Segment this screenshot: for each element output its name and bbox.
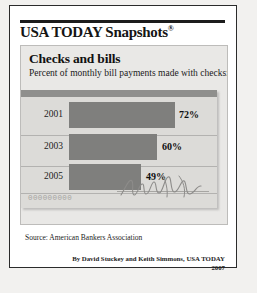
bar-row-2001: 2001 72% (21, 102, 217, 128)
chart-title: Checks and bills (29, 51, 120, 67)
registered-mark-icon: ® (168, 24, 174, 33)
bar-label-2005: 2005 (29, 171, 63, 181)
signature-line (117, 191, 209, 192)
bar-2003 (69, 134, 157, 160)
bar-value-2005: 49% (146, 171, 166, 182)
bar-row-2003: 2003 60% (21, 134, 217, 160)
credit-byline: By David Stuckey and Keith Simmons, USA … (72, 255, 225, 262)
check-top-band (21, 90, 217, 97)
credit-block: By David Stuckey and Keith Simmons, USA … (65, 254, 225, 272)
snapshot-page: USA TODAY Snapshots® Checks and bills Pe… (0, 0, 257, 293)
bar-label-2003: 2003 (29, 141, 63, 151)
masthead-rule (20, 20, 225, 23)
bar-label-2001: 2001 (29, 109, 63, 119)
bar-2005 (69, 164, 141, 190)
masthead-brand: USA TODAY Snapshots® (20, 24, 225, 42)
check-graphic: 2001 72% 2003 60% 2005 49% 000000 (21, 90, 217, 208)
source-text: Source: American Bankers Association (25, 233, 142, 242)
bar-2001 (69, 102, 175, 128)
snapshot-card: USA TODAY Snapshots® Checks and bills Pe… (9, 5, 237, 268)
micr-digits: 000000000 (28, 194, 72, 202)
masthead-brand-text: USA TODAY Snapshots (20, 24, 168, 40)
bar-value-2001: 72% (179, 109, 199, 120)
chart-subtitle: Percent of monthly bill payments made wi… (29, 68, 228, 78)
card-inner: USA TODAY Snapshots® Checks and bills Pe… (15, 11, 231, 262)
bar-row-2005: 2005 49% (21, 164, 217, 190)
credit-year: 2007 (65, 263, 225, 272)
chart-panel: Checks and bills Percent of monthly bill… (20, 45, 228, 225)
bar-value-2003: 60% (162, 141, 182, 152)
